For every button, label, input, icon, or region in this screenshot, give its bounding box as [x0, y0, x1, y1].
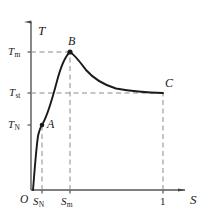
- y-axis-label: T: [38, 24, 45, 37]
- x-tick-label-sone: 1: [160, 196, 166, 207]
- torque-slip-figure: T S O Tm Tst TN SN Sm 1 A B C: [0, 0, 209, 222]
- y-tick-label-trated: TN: [8, 119, 20, 130]
- x-axis-label: S: [190, 193, 197, 206]
- origin-label: O: [20, 194, 28, 206]
- data-point-b: [67, 49, 72, 54]
- data-point-a: [40, 123, 45, 128]
- x-tick-label-smax: Sm: [61, 196, 72, 207]
- y-tick-label-tstart: Tst: [9, 87, 20, 98]
- point-label-a: A: [47, 118, 54, 130]
- x-tick-label-srated: SN: [33, 196, 44, 207]
- point-label-b: B: [68, 35, 75, 47]
- point-label-c: C: [165, 77, 173, 89]
- plot-canvas: [0, 0, 209, 222]
- y-tick-label-tmax: Tm: [8, 46, 20, 57]
